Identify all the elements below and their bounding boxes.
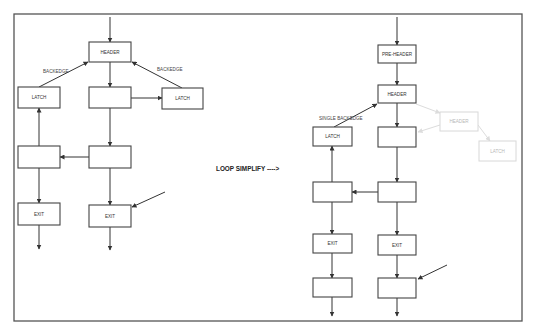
- basic-block-box: [313, 278, 352, 297]
- node-label: EXIT: [392, 243, 402, 248]
- basic-block-box: [378, 182, 416, 202]
- node-r-preheader: PRE-HEADER: [378, 45, 416, 63]
- node-r-body: [378, 127, 416, 147]
- loop-simplify-diagram: HEADERLATCHLATCHEXITEXITBACKEDGEBACKEDGE…: [0, 0, 534, 332]
- node-label: HEADER: [387, 92, 407, 97]
- before-loop-graph: HEADERLATCHLATCHEXITEXITBACKEDGEBACKEDGE: [18, 17, 203, 250]
- edge-label: SINGLE BACKEDGE: [319, 116, 363, 121]
- basic-block-box: [89, 146, 131, 168]
- node-l-exit-right: EXIT: [89, 205, 131, 227]
- node-l-exit-left: EXIT: [18, 203, 60, 225]
- node-r-latch: LATCH: [313, 127, 352, 146]
- after-loop-graph: HEADERLATCHPRE-HEADERHEADERLATCHEXITEXIT…: [313, 17, 516, 316]
- node-label: LATCH: [32, 95, 47, 100]
- ghost-flow-arrow: [418, 125, 440, 132]
- node-l-block-right: [89, 146, 131, 168]
- basic-block-box: [89, 87, 131, 108]
- node-label: EXIT: [34, 212, 44, 217]
- node-r-exit-right: EXIT: [378, 235, 416, 255]
- node-label: HEADER: [100, 50, 120, 55]
- node-r-exit-left: EXIT: [313, 234, 352, 253]
- node-label: EXIT: [105, 214, 115, 219]
- flow-arrow: [132, 62, 182, 88]
- ghost-flow-arrow: [416, 104, 440, 113]
- node-label: LATCH: [325, 134, 340, 139]
- ghost-node-g-latch: LATCH: [479, 141, 516, 161]
- node-r-block-right: [378, 182, 416, 202]
- flow-arrow: [132, 192, 165, 207]
- node-label: LATCH: [490, 149, 505, 154]
- flow-arrow: [418, 265, 447, 279]
- basic-block-box: [18, 146, 60, 168]
- node-r-bottom-right: [378, 278, 416, 298]
- node-label: LATCH: [175, 96, 190, 101]
- node-r-block-left: [313, 182, 352, 202]
- edge-label: BACKEDGE: [157, 67, 183, 72]
- ghost-flow-arrow: [478, 125, 490, 141]
- basic-block-box: [313, 182, 352, 202]
- node-label: EXIT: [327, 241, 337, 246]
- node-l-body: [89, 87, 131, 108]
- node-label: HEADER: [449, 119, 469, 124]
- basic-block-box: [378, 127, 416, 147]
- basic-block-box: [378, 278, 416, 298]
- node-r-bottom-left: [313, 278, 352, 297]
- node-l-latch-left: LATCH: [18, 87, 60, 108]
- node-l-block-left: [18, 146, 60, 168]
- edge-label: BACKEDGE: [43, 69, 69, 74]
- node-l-header: HEADER: [89, 42, 131, 62]
- ghost-node-g-header: HEADER: [440, 112, 478, 131]
- node-l-latch-right: LATCH: [162, 88, 203, 109]
- loop-simplify-label: LOOP SIMPLIFY ---->: [216, 165, 279, 172]
- node-label: PRE-HEADER: [382, 52, 413, 57]
- flow-arrow: [39, 62, 88, 87]
- node-r-header: HEADER: [378, 85, 416, 103]
